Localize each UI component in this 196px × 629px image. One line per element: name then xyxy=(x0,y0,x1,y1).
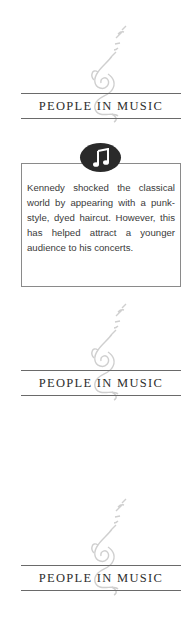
heading-bottom-rule xyxy=(21,118,181,119)
heading-bottom-rule xyxy=(21,395,181,396)
violinist-emblem-icon xyxy=(82,495,132,605)
heading-top-rule xyxy=(21,565,181,566)
fact-box-text: Kennedy shocked the classical world by a… xyxy=(27,180,175,255)
section-heading: PEOPLE IN MUSIC xyxy=(21,571,181,586)
music-note-icon xyxy=(80,143,121,172)
heading-top-rule xyxy=(21,370,181,371)
violinist-emblem-icon xyxy=(82,22,132,132)
section-heading: PEOPLE IN MUSIC xyxy=(21,376,181,391)
violinist-emblem-icon xyxy=(82,300,132,410)
heading-bottom-rule xyxy=(21,590,181,591)
section-heading: PEOPLE IN MUSIC xyxy=(21,99,181,114)
heading-top-rule xyxy=(21,93,181,94)
